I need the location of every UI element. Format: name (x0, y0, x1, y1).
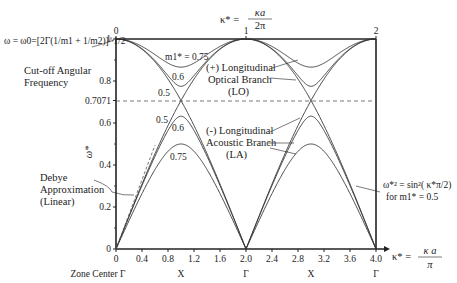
y-tick-label: 0 (106, 244, 111, 254)
svg-text:2π: 2π (255, 20, 266, 31)
debye-label-3: (Linear) (40, 196, 75, 208)
x-axis-ticks: 00.40.81.21.62.02.42.83.23.64.0Zone Cent… (70, 249, 382, 279)
lo-label-2: Optical Branch (208, 74, 273, 85)
y-tick-label: 0.7071 (85, 96, 111, 106)
x-tick-label: 0.4 (136, 254, 148, 264)
dispersion-chart: 00.20.40.60.70710.81 00.40.81.21.62.02.4… (0, 0, 457, 283)
label-la-06: 0.6 (172, 123, 184, 133)
x-tick-label: 1.2 (188, 254, 200, 264)
la-label-1: (-) Longitudinal (206, 125, 273, 137)
y-tick-label: 0.2 (99, 202, 111, 212)
y-tick-label: 0.6 (99, 118, 111, 128)
y-tick-label: 0.8 (99, 76, 111, 86)
cutoff-label-1: Cut-off Angular (24, 65, 92, 76)
sin-label-2: for m1* = 0.5 (386, 192, 439, 202)
top-tick-label: 2 (374, 26, 379, 36)
label-la-075: 0.75 (170, 152, 187, 162)
x-tick-label: 3.2 (318, 254, 330, 264)
x-tick-label: 0 (114, 254, 119, 264)
lo-label-1: (+) Longitudinal (206, 62, 276, 74)
label-lo-075: m1* = 0.75 (165, 52, 209, 62)
symmetry-point-label: Γ (373, 269, 379, 279)
lo-label-3: (LO) (228, 86, 249, 98)
symmetry-point-label: Zone Center Γ (70, 269, 126, 279)
svg-text:κ* =: κ* = (392, 251, 411, 262)
la-label-2: Acoustic Branch (206, 137, 277, 148)
symmetry-point-label: Γ (243, 269, 249, 279)
label-lo-06: 0.6 (172, 72, 184, 82)
svg-text:κ* =: κ* = (220, 14, 239, 25)
x-tick-label: 2.4 (266, 254, 278, 264)
y-tick-label: 0.4 (99, 160, 111, 170)
svg-text:π: π (427, 259, 433, 270)
x-tick-label: 0.8 (162, 254, 174, 264)
la-leader-3 (270, 148, 296, 154)
lo-leader-2 (270, 78, 296, 80)
cutoff-label-2: Frequency (24, 77, 69, 88)
x-tick-label: 2.8 (292, 254, 304, 264)
label-lo-05: 0.5 (158, 88, 170, 98)
cutoff-formula: ω = ω0=[2Γ(1/m1 + 1/m2)]^1/2 (4, 36, 126, 47)
x-axis-label: κ* = κ a π (392, 245, 442, 270)
symmetry-point-label: X (178, 269, 185, 279)
top-tick-label: 0 (114, 26, 119, 36)
x-tick-label: 1.6 (214, 254, 226, 264)
x-tick-label: 2.0 (240, 254, 252, 264)
x-tick-label: 4.0 (370, 254, 382, 264)
svg-text:κa: κa (255, 7, 265, 18)
la-label-3: (LA) (226, 149, 247, 161)
debye-label-1: Debye (40, 172, 68, 183)
symmetry-point-label: X (308, 269, 315, 279)
top-tick-label: 1 (244, 26, 249, 36)
curve-acoustic (116, 101, 376, 249)
y-axis-label: ω* (83, 145, 94, 158)
debye-label-2: Approximation (40, 184, 105, 195)
top-axis-ticks: 012 (114, 26, 379, 39)
x-tick-label: 3.6 (344, 254, 356, 264)
svg-text:κ a: κ a (424, 245, 437, 256)
sin-label-1: ω*² = sin²( κ*π/2) (383, 180, 451, 191)
label-la-05: 0.5 (156, 115, 168, 125)
debye-line (116, 145, 155, 249)
